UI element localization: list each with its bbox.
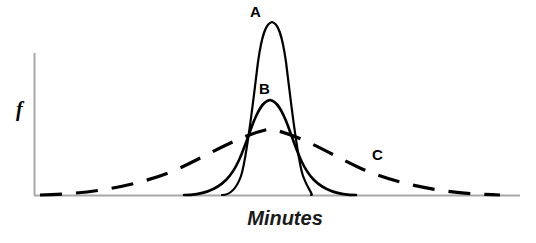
y-axis-label: f	[16, 99, 23, 119]
x-axis-label: Minutes	[0, 206, 536, 230]
curve-label-c: C	[372, 147, 383, 162]
curve-b-solid	[184, 100, 356, 195]
curve-label-b: B	[259, 81, 270, 96]
distribution-figure: f A B C Minutes	[0, 0, 536, 243]
curve-label-a: A	[250, 4, 261, 19]
curve-c-dashed	[40, 129, 500, 195]
